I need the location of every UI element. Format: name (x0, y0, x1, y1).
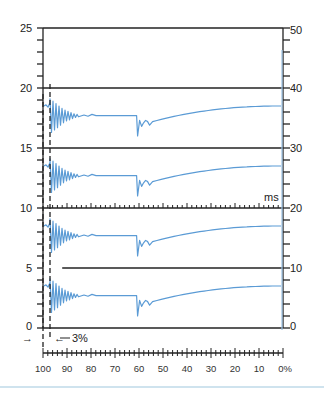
percent-label: 50 (158, 363, 169, 374)
left-label-15: 15 (20, 142, 32, 154)
right-label-20: 20 (290, 202, 302, 214)
right-label-40: 40 (290, 82, 302, 94)
right-label-0: 0 (290, 320, 296, 332)
arrow-right-icon: → (22, 332, 33, 344)
percent-axis-labels: 100 90 80 70 60 50 40 30 20 10 0% (35, 363, 292, 374)
footer-divider (0, 386, 324, 388)
percent-label: 40 (182, 363, 193, 374)
ms-axis-ticks (48, 203, 278, 208)
left-axis-ticks (37, 28, 43, 328)
left-label-5: 5 (26, 262, 32, 274)
right-label-10: 10 (290, 262, 302, 274)
left-label-25: 25 (20, 22, 32, 34)
left-label-10: 10 (20, 202, 32, 214)
right-label-50: 50 (290, 24, 302, 36)
trace-line (44, 219, 281, 256)
percent-label: 70 (110, 363, 121, 374)
trace-line (44, 99, 281, 136)
percent-label: 80 (86, 363, 97, 374)
trace-line (44, 159, 281, 196)
ms-label: ms (264, 191, 279, 203)
percent-label: 10 (254, 363, 265, 374)
horizontal-reference-lines (43, 28, 283, 328)
percent-label: 60 (134, 363, 145, 374)
right-axis-ticks (283, 28, 290, 328)
trace-line (44, 279, 281, 316)
percent-label: 90 (62, 363, 73, 374)
annotation-3-percent: 3% (72, 332, 88, 344)
right-label-30: 30 (290, 142, 302, 154)
percent-label: 100 (35, 363, 51, 374)
left-label-20: 20 (20, 82, 32, 94)
percent-label: 0% (278, 363, 292, 374)
left-label-0: 0 (26, 320, 32, 332)
percent-label: 20 (230, 363, 241, 374)
percent-label: 30 (206, 363, 217, 374)
percent-axis (43, 348, 283, 358)
chart: 25 20 15 10 5 0 50 40 30 20 10 0 ms → ← … (0, 0, 324, 394)
